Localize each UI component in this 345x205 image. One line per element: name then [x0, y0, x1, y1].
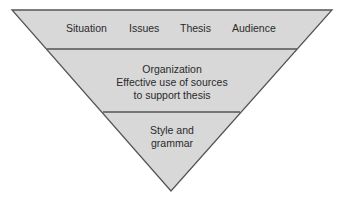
tier-1-item-issues: Issues: [129, 22, 159, 35]
tier-3-line-1: Style and: [112, 124, 232, 137]
tier-3-style: Style and grammar: [112, 124, 232, 150]
tier-2-line-2: Effective use of sources: [72, 76, 272, 89]
tier-1-item-situation: Situation: [66, 22, 107, 35]
tier-1-foundations: Situation Issues Thesis Audience: [0, 22, 345, 36]
tier-1-item-audience: Audience: [232, 22, 276, 35]
tier-2-line-1: Organization: [72, 63, 272, 76]
tier-2-line-3: to support thesis: [72, 89, 272, 102]
tier-2-organization: Organization Effective use of sources to…: [72, 63, 272, 102]
tier-1-item-thesis: Thesis: [180, 22, 211, 35]
tier-3-line-2: grammar: [112, 137, 232, 150]
